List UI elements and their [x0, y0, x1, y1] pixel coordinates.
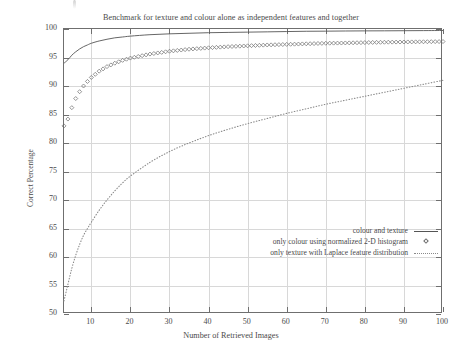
series-line — [64, 30, 443, 63]
x-tick-label: 10 — [77, 317, 103, 326]
chart-legend: colour and texture only colour using nor… — [228, 225, 439, 258]
x-tick-label: 80 — [351, 317, 377, 326]
y-tick-label: 55 — [31, 280, 57, 289]
legend-label: only texture with Laplace feature distri… — [270, 248, 413, 257]
y-tick-label: 100 — [31, 23, 57, 32]
x-tick-label: 30 — [155, 317, 181, 326]
y-tick-mark — [436, 314, 441, 315]
x-tick-label: 20 — [116, 317, 142, 326]
y-tick-label: 85 — [31, 109, 57, 118]
legend-label: only colour using normalized 2-D histogr… — [273, 237, 413, 246]
legend-item: only texture with Laplace feature distri… — [228, 247, 439, 258]
x-axis-label: Number of Retrieved Images — [0, 331, 462, 340]
x-tick-mark — [443, 29, 444, 34]
y-tick-label: 90 — [31, 80, 57, 89]
legend-item: colour and texture — [228, 225, 439, 236]
chart-title: Benchmark for texture and colour alone a… — [0, 13, 462, 22]
series-marker-group — [62, 40, 445, 128]
x-tick-label: 40 — [195, 317, 221, 326]
y-tick-label: 65 — [31, 223, 57, 232]
x-tick-label: 60 — [273, 317, 299, 326]
x-tick-label: 70 — [312, 317, 338, 326]
diamond-marker-key — [413, 237, 439, 247]
y-tick-label: 95 — [31, 52, 57, 61]
y-tick-label: 50 — [31, 308, 57, 317]
dotted-line-key — [413, 248, 439, 258]
series-line — [64, 80, 443, 301]
x-tick-label: 90 — [390, 317, 416, 326]
legend-item: only colour using normalized 2-D histogr… — [228, 236, 439, 247]
solid-line-key — [413, 226, 439, 236]
y-tick-label: 70 — [31, 194, 57, 203]
legend-label: colour and texture — [353, 226, 413, 235]
plot-area: colour and texture only colour using nor… — [63, 28, 442, 313]
y-tick-label: 80 — [31, 137, 57, 146]
x-tick-label: 100 — [429, 317, 455, 326]
y-tick-label: 75 — [31, 166, 57, 175]
x-tick-label: 50 — [234, 317, 260, 326]
x-tick-mark — [443, 307, 444, 312]
scan-artifact — [73, 0, 76, 9]
chart-figure: Benchmark for texture and colour alone a… — [0, 0, 462, 353]
y-tick-label: 60 — [31, 251, 57, 260]
y-tick-mark — [64, 314, 69, 315]
data-series-layer — [64, 29, 443, 314]
